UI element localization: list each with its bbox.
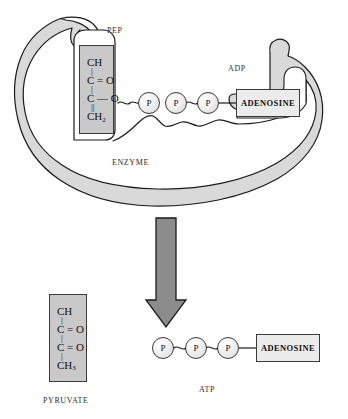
pep-structure: CH | C = O | C — O || CH2	[80, 57, 119, 122]
pep-row-6-atom: CH	[87, 110, 102, 122]
pyruvate-label: PYRUVATE	[43, 396, 89, 405]
atp-label: ATP	[199, 385, 215, 394]
pyruvate-row-6: CH3	[57, 360, 84, 371]
pyruvate-row-6-subscript: 3	[72, 364, 76, 372]
enzyme-label: ENZYME	[112, 158, 149, 167]
adp-label: ADP	[228, 64, 246, 73]
pyruvate-molecule-box: CH | C = O | C = O | CH3	[49, 294, 87, 382]
atp-gamma-phosphate-label: P	[160, 343, 165, 353]
atp-alpha-phosphate-circle: P	[217, 337, 239, 359]
diagram-canvas: PEP ADP ENZYME CH | C = O | C — O || CH2…	[0, 0, 348, 419]
reaction-arrow	[146, 218, 186, 327]
atp-beta-phosphate-circle: P	[185, 337, 207, 359]
pyruvate-structure: CH | C = O | C = O | CH3	[50, 306, 84, 371]
pep-row-6-subscript: 2	[102, 116, 106, 124]
atp-alpha-phosphate-label: P	[225, 343, 230, 353]
adp-adenosine-box: ADENOSINE	[236, 89, 300, 117]
atp-beta-phosphate-label: P	[193, 343, 198, 353]
atp-adenosine-box: ADENOSINE	[256, 334, 320, 362]
adp-beta-phosphate-label: P	[173, 98, 178, 108]
pep-row-6: CH2	[87, 111, 119, 122]
pep-phosphate-circle: P	[138, 92, 160, 114]
pep-molecule-box: CH | C = O | C — O || CH2	[79, 45, 114, 134]
adp-alpha-phosphate-circle: P	[197, 92, 219, 114]
adp-alpha-phosphate-label: P	[205, 98, 210, 108]
pep-phosphate-label: P	[146, 98, 151, 108]
pyruvate-row-6-atom: CH	[57, 359, 72, 371]
adp-beta-phosphate-circle: P	[165, 92, 187, 114]
pep-phosphate-squiggle-bond	[118, 102, 139, 104]
atp-gamma-phosphate-circle: P	[152, 337, 174, 359]
pep-label: PEP	[107, 26, 123, 35]
